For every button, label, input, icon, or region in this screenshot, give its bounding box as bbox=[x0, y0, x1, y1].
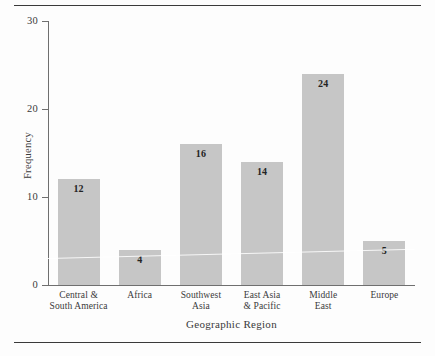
x-axis-tick-label: Africa bbox=[109, 290, 170, 301]
bar[interactable]: 24 bbox=[302, 74, 344, 285]
bar-value-label: 5 bbox=[363, 245, 405, 256]
bar[interactable]: 4 bbox=[119, 250, 161, 285]
bar-value-label: 12 bbox=[58, 183, 100, 194]
x-axis-tick-label: SouthwestAsia bbox=[170, 290, 231, 312]
y-axis-tick-mark bbox=[42, 197, 48, 198]
x-axis-tick-label-line: Southwest bbox=[170, 290, 231, 301]
bar[interactable]: 12 bbox=[58, 179, 100, 285]
figure-page: 0102030 Frequency 1241614245 Central &So… bbox=[0, 0, 435, 356]
x-axis-tick-label: Europe bbox=[354, 290, 415, 301]
x-axis-tick-label-line: Middle bbox=[293, 290, 354, 301]
y-axis-tick-mark bbox=[42, 109, 48, 110]
x-axis-line bbox=[48, 285, 415, 286]
bar[interactable]: 16 bbox=[180, 144, 222, 285]
y-axis-tick-label: 30 bbox=[8, 16, 38, 26]
scan-fold-artifact bbox=[48, 249, 415, 259]
x-axis-tick-label-line: Europe bbox=[354, 290, 415, 301]
x-axis-tick-label-line: Africa bbox=[109, 290, 170, 301]
bar-value-label: 4 bbox=[119, 254, 161, 265]
bar[interactable]: 5 bbox=[363, 241, 405, 285]
y-axis-line bbox=[48, 21, 49, 286]
x-axis-tick-label-line: East bbox=[293, 301, 354, 312]
x-axis-tick-label: MiddleEast bbox=[293, 290, 354, 312]
y-axis-title: Frequency bbox=[22, 81, 33, 231]
bar-chart: 0102030 Frequency 1241614245 Central &So… bbox=[0, 0, 435, 356]
y-axis-tick-mark bbox=[42, 21, 48, 22]
x-axis-tick-label-line: East Asia bbox=[232, 290, 293, 301]
x-axis-tick-label: East Asia& Pacific bbox=[232, 290, 293, 312]
x-axis-tick-label: Central &South America bbox=[48, 290, 109, 312]
y-axis-tick-mark bbox=[42, 285, 48, 286]
x-axis-tick-label-line: Central & bbox=[48, 290, 109, 301]
y-axis-tick-label: 0 bbox=[8, 280, 38, 290]
x-axis-tick-label-line: & Pacific bbox=[232, 301, 293, 312]
bar-value-label: 24 bbox=[302, 78, 344, 89]
bar-value-label: 14 bbox=[241, 166, 283, 177]
bar[interactable]: 14 bbox=[241, 162, 283, 285]
x-axis-tick-label-line: Asia bbox=[170, 301, 231, 312]
bar-value-label: 16 bbox=[180, 148, 222, 159]
x-axis-tick-label-line: South America bbox=[48, 301, 109, 312]
x-axis-title: Geographic Region bbox=[48, 318, 415, 330]
